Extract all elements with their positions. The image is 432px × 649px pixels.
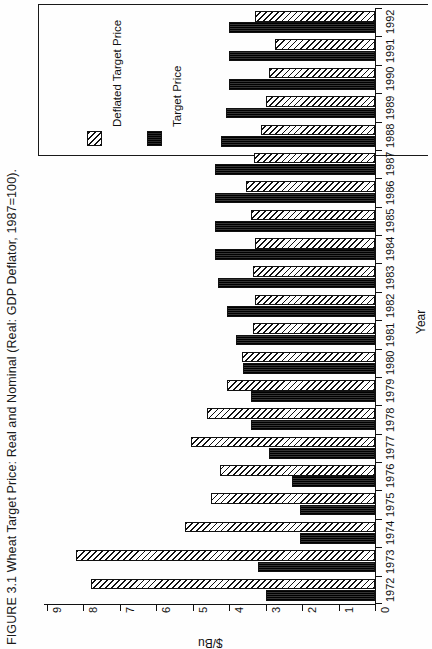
year-label-1976: 1976 (384, 464, 396, 488)
bar-deflated-1986 (246, 181, 375, 192)
category-tick-1978 (375, 405, 382, 406)
bar-target-1977 (269, 448, 375, 459)
year-label-1991: 1991 (384, 38, 396, 62)
year-label-1974: 1974 (384, 521, 396, 545)
year-label-1977: 1977 (384, 436, 396, 460)
bar-target-1990 (229, 79, 375, 90)
bar-target-1976 (292, 476, 375, 487)
bar-deflated-1975 (211, 493, 375, 504)
value-tick-2 (302, 604, 303, 611)
value-axis-line (44, 604, 375, 605)
year-label-1985: 1985 (384, 209, 396, 233)
bar-target-1988 (221, 136, 375, 147)
category-axis-line (375, 8, 376, 606)
value-tick-0 (375, 604, 376, 611)
bar-deflated-1972 (91, 579, 375, 590)
bar-target-1979 (251, 391, 375, 402)
category-tick-1976 (375, 462, 382, 463)
category-axis-title: Year (414, 310, 428, 334)
bar-deflated-1985 (251, 210, 375, 221)
year-label-1984: 1984 (384, 237, 396, 261)
bar-deflated-1992 (255, 11, 375, 22)
bar-target-1972 (266, 590, 375, 601)
category-tick-end (375, 603, 382, 604)
bar-target-1992 (229, 22, 375, 33)
category-tick-1975 (375, 490, 382, 491)
figure-title: FIGURE 3.1 Wheat Target Price: Real and … (0, 0, 24, 649)
year-label-1982: 1982 (384, 294, 396, 318)
chart-figure: Deflated Target Price Target Price 19721… (38, 4, 428, 645)
bar-target-1987 (215, 164, 375, 175)
bar-deflated-1979 (227, 380, 375, 391)
category-tick-1972 (375, 576, 382, 577)
bar-target-1974 (300, 533, 375, 544)
bar-target-1991 (229, 51, 375, 62)
category-tick-1983 (375, 263, 382, 264)
year-label-1992: 1992 (384, 10, 396, 34)
value-axis-title: $/Bu (198, 636, 223, 649)
category-tick-1977 (375, 434, 382, 435)
category-tick-1991 (375, 36, 382, 37)
bar-deflated-1977 (191, 437, 375, 448)
value-tick-label-0: 0 (379, 607, 391, 613)
year-label-1981: 1981 (384, 322, 396, 346)
category-tick-1987 (375, 150, 382, 151)
year-label-1980: 1980 (384, 350, 396, 374)
category-tick-1985 (375, 207, 382, 208)
bar-target-1984 (215, 249, 375, 260)
bar-target-1985 (215, 221, 375, 232)
value-tick-label-1: 1 (343, 607, 355, 613)
category-tick-1989 (375, 93, 382, 94)
bar-deflated-1989 (266, 96, 375, 107)
value-tick-label-8: 8 (87, 607, 99, 613)
year-label-1989: 1989 (384, 95, 396, 119)
plot-area: 1972197319741975197619771978197919801981… (41, 8, 375, 608)
category-tick-1990 (375, 65, 382, 66)
bar-deflated-1984 (255, 238, 375, 249)
value-tick-3 (266, 604, 267, 611)
category-tick-1992 (375, 8, 382, 9)
bar-deflated-1988 (261, 125, 375, 136)
value-tick-9 (47, 604, 48, 611)
bar-deflated-1990 (269, 68, 375, 79)
value-tick-label-5: 5 (197, 607, 209, 613)
value-tick-7 (120, 604, 121, 611)
bar-target-1986 (215, 193, 375, 204)
category-tick-1981 (375, 320, 382, 321)
value-tick-1 (339, 604, 340, 611)
year-label-1973: 1973 (384, 549, 396, 573)
category-tick-1980 (375, 349, 382, 350)
year-label-1990: 1990 (384, 67, 396, 91)
category-tick-1979 (375, 377, 382, 378)
bar-deflated-1973 (76, 550, 375, 561)
category-tick-1984 (375, 235, 382, 236)
bar-deflated-1982 (255, 295, 375, 306)
category-tick-1988 (375, 122, 382, 123)
value-tick-label-3: 3 (270, 607, 282, 613)
value-tick-6 (156, 604, 157, 611)
category-tick-1974 (375, 519, 382, 520)
bar-target-1981 (236, 335, 375, 346)
bar-deflated-1978 (207, 408, 375, 419)
year-label-1988: 1988 (384, 123, 396, 147)
value-tick-label-9: 9 (51, 607, 63, 613)
value-tick-8 (83, 604, 84, 611)
value-tick-label-2: 2 (306, 607, 318, 613)
bar-deflated-1991 (275, 39, 375, 50)
bar-target-1978 (251, 420, 375, 431)
bar-target-1983 (218, 278, 375, 289)
year-label-1975: 1975 (384, 492, 396, 516)
year-label-1972: 1972 (384, 578, 396, 602)
bar-deflated-1981 (253, 323, 375, 334)
year-label-1983: 1983 (384, 265, 396, 289)
value-tick-4 (229, 604, 230, 611)
value-tick-label-4: 4 (233, 607, 245, 613)
category-tick-1986 (375, 178, 382, 179)
bar-target-1989 (226, 108, 375, 119)
bar-target-1973 (258, 562, 375, 573)
bar-deflated-1974 (185, 522, 375, 533)
bar-deflated-1983 (253, 266, 375, 277)
bar-deflated-1976 (220, 465, 375, 476)
category-tick-1973 (375, 547, 382, 548)
bar-target-1975 (300, 505, 375, 516)
